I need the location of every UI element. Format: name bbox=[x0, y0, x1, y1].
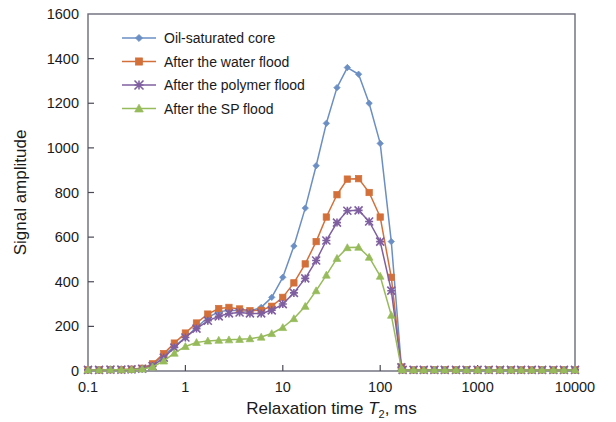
x-tick-label: 1000 bbox=[461, 379, 493, 395]
y-tick-label: 400 bbox=[55, 274, 79, 290]
square-marker bbox=[334, 192, 340, 198]
y-tick-label: 1400 bbox=[47, 51, 79, 67]
square-marker bbox=[377, 214, 383, 220]
y-tick-label: 800 bbox=[55, 185, 79, 201]
y-tick-label: 600 bbox=[55, 229, 79, 245]
x-tick-label: 10000 bbox=[555, 379, 595, 395]
y-tick-label: 1000 bbox=[47, 140, 79, 156]
y-tick-label: 200 bbox=[55, 318, 79, 334]
x-axis-title-main: Relaxation time bbox=[246, 399, 368, 418]
star-marker bbox=[246, 309, 254, 317]
square-marker bbox=[355, 175, 361, 181]
x-axis-title: Relaxation time T2, ms bbox=[246, 399, 417, 420]
star-marker bbox=[322, 236, 330, 244]
legend-label: After the polymer flood bbox=[164, 77, 305, 93]
star-marker bbox=[343, 207, 351, 215]
x-tick-label: 10 bbox=[275, 379, 291, 395]
star-marker bbox=[355, 206, 363, 214]
star-marker bbox=[181, 334, 189, 342]
star-marker bbox=[279, 300, 287, 308]
x-tick-label: 0.1 bbox=[78, 379, 98, 395]
square-marker bbox=[313, 238, 319, 244]
square-marker bbox=[291, 280, 297, 286]
square-marker bbox=[205, 311, 211, 317]
square-marker bbox=[135, 58, 142, 65]
chart-figure: 02004006008001000120014001600 0.11101001… bbox=[0, 0, 616, 422]
legend-label: Oil-saturated core bbox=[164, 30, 275, 46]
square-marker bbox=[280, 294, 286, 300]
star-marker bbox=[204, 317, 212, 325]
y-axis-title: Signal amplitude bbox=[11, 130, 30, 256]
y-tick-label: 0 bbox=[71, 363, 79, 379]
y-tick-label: 1200 bbox=[47, 95, 79, 111]
star-marker bbox=[301, 274, 309, 282]
legend-label: After the SP flood bbox=[164, 101, 273, 117]
legend-label: After the water flood bbox=[164, 54, 289, 70]
x-axis-title-tail: , ms bbox=[385, 399, 417, 418]
x-tick-label: 100 bbox=[368, 379, 392, 395]
square-marker bbox=[366, 189, 372, 195]
x-tick-label: 1 bbox=[181, 379, 189, 395]
square-marker bbox=[323, 214, 329, 220]
star-marker bbox=[215, 312, 223, 320]
star-marker bbox=[192, 325, 200, 333]
star-marker bbox=[387, 287, 395, 295]
square-marker bbox=[216, 305, 222, 311]
star-marker bbox=[236, 309, 244, 317]
signal-amplitude-vs-relaxation-time-chart: 02004006008001000120014001600 0.11101001… bbox=[0, 0, 616, 422]
star-marker bbox=[376, 238, 384, 246]
star-marker bbox=[365, 218, 373, 226]
y-tick-label: 1600 bbox=[47, 6, 79, 22]
star-marker bbox=[312, 257, 320, 265]
square-marker bbox=[302, 261, 308, 267]
star-marker bbox=[257, 309, 265, 317]
star-marker bbox=[290, 289, 298, 297]
chart-background bbox=[0, 0, 616, 422]
square-marker bbox=[344, 176, 350, 182]
star-marker bbox=[333, 219, 341, 227]
star-marker bbox=[225, 309, 233, 317]
star-marker bbox=[268, 306, 276, 314]
star-marker bbox=[135, 81, 144, 90]
